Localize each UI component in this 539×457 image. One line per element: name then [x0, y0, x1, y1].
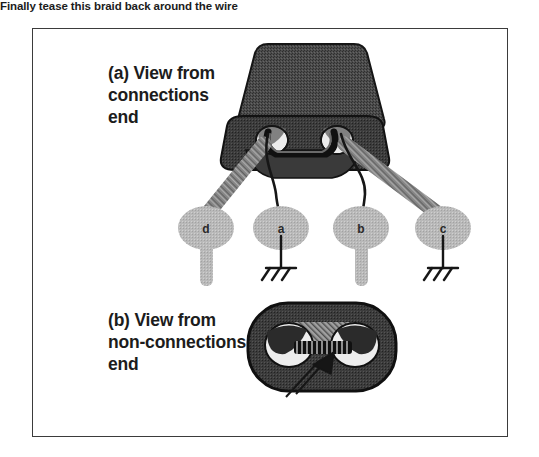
terminal-b-label: b — [353, 222, 369, 236]
view-a-caption: (a) View from connections end — [108, 62, 298, 128]
terminal-c-label: c — [435, 222, 451, 236]
view-b-caption-line3: end — [108, 353, 308, 375]
terminal-c[interactable] — [415, 206, 471, 280]
terminal-a-label: a — [273, 222, 289, 236]
view-b-caption-line2: non-connections — [108, 331, 308, 353]
terminal-d-label: d — [198, 222, 214, 236]
view-b-caption-line1: (b) View from — [108, 309, 308, 331]
terminal-d[interactable] — [178, 206, 234, 286]
ground-symbol-a — [262, 268, 296, 280]
terminal-b[interactable] — [333, 206, 389, 286]
ground-symbol-c — [424, 268, 458, 280]
terminal-a[interactable] — [253, 206, 309, 280]
terminal-group — [178, 206, 471, 286]
view-a-caption-line3: end — [108, 106, 298, 128]
view-b-caption: (b) View from non-connections end — [108, 309, 308, 375]
view-a-caption-line2: connections — [108, 84, 298, 106]
view-a-caption-line1: (a) View from — [108, 62, 298, 84]
